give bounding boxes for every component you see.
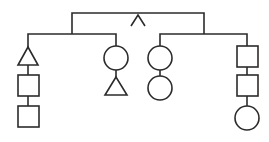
circle-shape bbox=[235, 106, 259, 130]
triangle-shape bbox=[18, 47, 38, 65]
square-shape bbox=[237, 46, 258, 67]
column-2 bbox=[104, 46, 128, 95]
circle-shape bbox=[148, 46, 172, 70]
caret-icon bbox=[131, 15, 145, 26]
right-group-bar bbox=[160, 34, 247, 46]
right-group bbox=[148, 34, 259, 130]
square-shape bbox=[237, 75, 258, 96]
triangle-shape bbox=[105, 77, 127, 95]
circle-shape bbox=[148, 76, 172, 100]
circle-shape bbox=[104, 46, 128, 70]
square-shape bbox=[18, 75, 39, 96]
left-group-bar bbox=[28, 34, 116, 47]
square-shape bbox=[18, 106, 39, 127]
column-4 bbox=[235, 46, 259, 130]
column-3 bbox=[148, 46, 172, 100]
column-1 bbox=[18, 47, 39, 127]
tree-diagram bbox=[0, 0, 269, 142]
left-group bbox=[18, 34, 128, 127]
